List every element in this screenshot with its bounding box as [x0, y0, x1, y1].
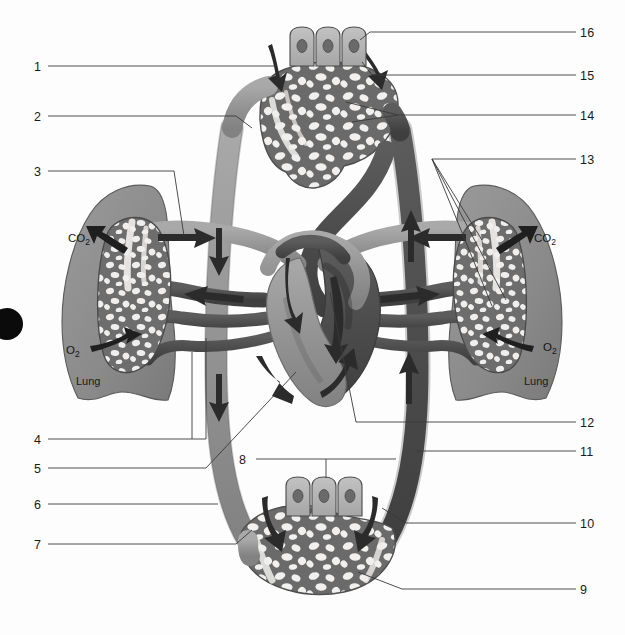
label-1: 1: [34, 61, 41, 74]
label-12: 12: [580, 417, 594, 430]
cell: [312, 477, 336, 516]
co2-text-left: CO: [68, 232, 85, 244]
label-9: 9: [580, 584, 587, 597]
cell: [286, 477, 310, 516]
cell: [290, 27, 314, 66]
co2-text-right: CO: [534, 232, 551, 244]
label-5: 5: [34, 463, 41, 476]
lung-label-left: Lung: [76, 375, 100, 387]
o2-text-right: O: [543, 341, 552, 353]
co2-sub-left: 2: [85, 237, 90, 247]
label-15: 15: [580, 70, 594, 83]
label-4: 4: [34, 434, 41, 447]
diagram-page: 1 2 3 4 5 6 7 8 16 15 14 13 12 11 10 9 C…: [0, 0, 625, 635]
tissue-cells-bottom: [286, 477, 362, 516]
o2-sub-left: 2: [75, 349, 80, 359]
label-16: 16: [580, 27, 594, 40]
co2-label-left: CO2: [68, 232, 90, 247]
cell: [338, 477, 362, 516]
co2-label-right: CO2: [534, 232, 556, 247]
tissue-cells-top: [290, 27, 366, 66]
label-3: 3: [34, 166, 41, 179]
label-13: 13: [580, 154, 594, 167]
o2-text-left: O: [66, 344, 75, 356]
o2-label-right: O2: [543, 341, 557, 356]
cell: [342, 27, 366, 66]
label-6: 6: [34, 499, 41, 512]
label-8: 8: [239, 454, 246, 467]
label-14: 14: [580, 110, 594, 123]
label-11: 11: [580, 446, 593, 459]
label-7: 7: [34, 539, 41, 552]
label-10: 10: [580, 518, 594, 531]
cell: [316, 27, 340, 66]
co2-sub-right: 2: [551, 237, 556, 247]
circulatory-system-figure: [0, 0, 625, 635]
o2-sub-right: 2: [552, 346, 557, 356]
lower-artery-connector: [248, 540, 250, 556]
lung-label-right: Lung: [524, 375, 548, 387]
o2-label-left: O2: [66, 344, 80, 359]
label-2: 2: [34, 111, 41, 124]
